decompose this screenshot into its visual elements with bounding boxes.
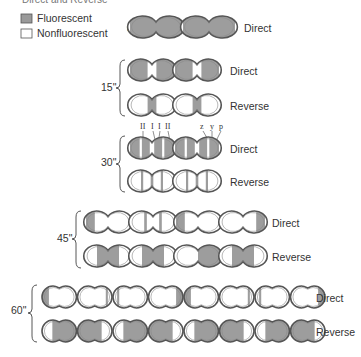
time-label-45: 45": [57, 232, 73, 244]
band-label: z: [200, 122, 204, 131]
legend-swatch-nonfluorescent: [21, 29, 32, 38]
cell: [173, 169, 222, 193]
fluorescent-region: [142, 244, 164, 268]
fluorescent-region: [186, 169, 188, 193]
row-label-45-reverse: Reverse: [272, 251, 311, 263]
fluorescent-region: [144, 210, 147, 234]
fluorescent-region: [97, 244, 119, 268]
cell: [128, 93, 177, 117]
cell: [174, 244, 223, 268]
cell: [128, 169, 177, 193]
fluorescent-region: [196, 169, 199, 193]
cell: [149, 285, 184, 309]
fluorescent-region: [232, 244, 254, 268]
lineage-diagram: Direct and Reverse Fluorescent Nonfluore…: [0, 0, 361, 357]
time-label-15: 15": [101, 81, 117, 93]
cell: [220, 285, 255, 309]
cell: [128, 15, 185, 39]
cell: [128, 58, 177, 82]
row-label-45-direct: Direct: [272, 217, 300, 229]
row-label-60-reverse: Reverse: [316, 326, 355, 338]
cell: [113, 319, 148, 343]
cell: [255, 285, 290, 309]
cell: [181, 15, 238, 39]
cell: [255, 319, 290, 343]
row-label-30-reverse: Reverse: [230, 176, 269, 188]
band-label: p: [219, 122, 223, 131]
cell: [84, 244, 133, 268]
bracket-30: [116, 136, 125, 192]
cell: [78, 319, 113, 343]
cell: [174, 210, 223, 234]
cell: [149, 319, 184, 343]
band-label: I: [158, 122, 161, 131]
bracket-60: [28, 285, 37, 342]
cell: [42, 319, 77, 343]
cell: [129, 244, 178, 268]
fluorescent-region: [159, 210, 162, 234]
bracket-45: [72, 211, 81, 268]
legend-label-fluorescent: Fluorescent: [37, 12, 92, 24]
row-label-15-direct: Direct: [230, 65, 258, 77]
cell: [173, 136, 222, 160]
band-label: I: [151, 122, 154, 131]
band-label: II: [140, 122, 146, 131]
legend: Fluorescent Nonfluorescent: [21, 12, 108, 39]
cell: [42, 285, 77, 309]
cell: [184, 319, 219, 343]
cell: [113, 285, 148, 309]
row-label-0-direct: Direct: [244, 22, 272, 34]
caption-fragment: Direct and Reverse: [22, 0, 108, 5]
legend-label-nonfluorescent: Nonfluorescent: [37, 27, 108, 39]
row-label-15-reverse: Reverse: [230, 100, 269, 112]
fluorescent-region: [151, 169, 154, 193]
time-label-30: 30": [101, 156, 117, 168]
fluorescent-region: [141, 169, 143, 193]
cell: [173, 93, 222, 117]
legend-swatch-fluorescent: [21, 14, 32, 23]
cell: [219, 210, 268, 234]
cell: [184, 285, 219, 309]
fluorescent-region: [161, 169, 163, 193]
row-label-60-direct: Direct: [316, 292, 344, 304]
cells-layer: [42, 15, 325, 343]
cell: [173, 58, 222, 82]
cell: [129, 210, 178, 234]
bracket-15: [116, 60, 125, 116]
band-label: y: [210, 122, 214, 131]
fluorescent-region: [206, 169, 208, 193]
cell: [84, 210, 133, 234]
time-label-60: 60": [11, 304, 27, 316]
cell: [128, 136, 177, 160]
band-label: II: [165, 122, 171, 131]
row-label-30-direct: Direct: [230, 143, 258, 155]
cell: [220, 319, 255, 343]
cell: [78, 285, 112, 309]
cell: [219, 244, 268, 268]
